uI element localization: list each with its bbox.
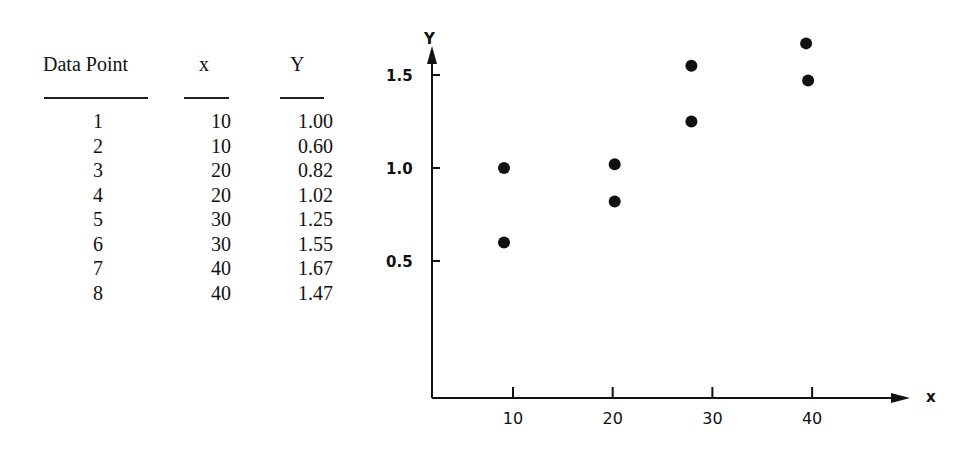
scatter-plot: Y x 0.51.01.5 10203040 [0,0,973,456]
y-axis: Y [423,30,437,398]
data-point-marker [498,236,510,248]
data-point-marker [609,195,621,207]
data-point-marker [685,116,697,128]
data-point-marker [498,162,510,174]
y-tick-label: 0.5 [386,253,413,271]
x-tick-label: 10 [503,409,523,428]
data-points [498,37,814,248]
x-tick-label: 20 [603,409,623,428]
y-tick-label: 1.0 [386,160,413,178]
data-point-marker [802,75,814,87]
y-axis-arrow-icon [427,46,437,64]
x-axis-arrow-icon [891,393,910,403]
data-point-marker [800,37,812,49]
x-tick-label: 30 [702,409,722,428]
data-point-marker [685,60,697,72]
data-point-marker [609,158,621,170]
x-tick-label: 40 [802,409,822,428]
x-ticks: 10203040 [503,387,822,428]
y-tick-label: 1.5 [386,67,413,85]
y-axis-label: Y [423,30,436,48]
x-axis: x [432,388,936,406]
x-axis-label: x [926,388,936,406]
